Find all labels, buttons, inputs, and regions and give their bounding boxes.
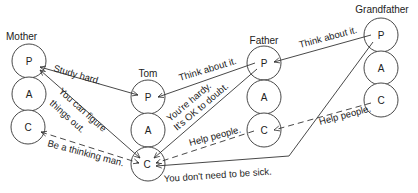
- message-text: You don't need to be sick.: [163, 165, 272, 184]
- state-label: P: [261, 58, 268, 69]
- state-label: A: [261, 92, 268, 103]
- state-label: A: [145, 125, 152, 136]
- state-label: A: [378, 63, 385, 74]
- person-label: Mother: [6, 31, 38, 42]
- message-text: Be a thinking man.: [46, 137, 125, 168]
- state-label: P: [145, 92, 152, 103]
- message-text: Study hard.: [52, 62, 102, 86]
- script-diagram: Mother P A C Tom P A C Father P A C Gran…: [0, 0, 418, 193]
- state-label: P: [26, 56, 33, 67]
- state-label: C: [260, 125, 267, 136]
- person-label: Grandfather: [355, 4, 409, 15]
- message-text: Think about it.: [177, 55, 237, 83]
- person-mother: Mother P A C: [6, 31, 46, 144]
- state-label: C: [377, 95, 384, 106]
- state-label: P: [378, 30, 385, 41]
- message-text: Think about it.: [298, 24, 358, 50]
- person-tom: Tom P A C: [131, 68, 165, 181]
- state-label: A: [26, 89, 33, 100]
- person-father: Father P A C: [247, 35, 281, 147]
- state-label: C: [143, 159, 150, 170]
- message-text: Help people.: [188, 123, 242, 147]
- state-label: C: [24, 122, 31, 133]
- person-grandfather: Grandfather P A C: [355, 4, 409, 117]
- person-label: Tom: [139, 68, 158, 79]
- person-label: Father: [250, 35, 280, 46]
